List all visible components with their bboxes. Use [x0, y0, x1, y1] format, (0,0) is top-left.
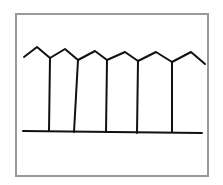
fence-post-3	[106, 60, 107, 132]
fence-post-1	[49, 58, 50, 131]
fence-drawing	[0, 0, 223, 185]
fence-posts	[49, 58, 172, 133]
fence-top-zigzag	[24, 47, 205, 64]
fence-post-2	[74, 60, 78, 132]
fence-post-4	[137, 61, 138, 133]
ground-line	[23, 131, 202, 133]
